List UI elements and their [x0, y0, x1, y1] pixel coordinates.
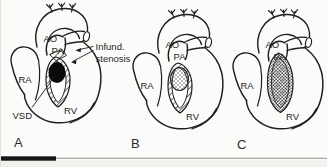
infundibular-stenosis-arrow-lower [73, 51, 94, 62]
right-ventricle-label: RV [64, 105, 78, 116]
right-atrium-label: RA [19, 74, 33, 85]
bottom-margin-strip [1, 160, 327, 167]
heart-diagram-a: AO PA RA RV [11, 3, 101, 123]
panel-caption-c: C [237, 137, 246, 152]
right-atrium-label: RA [141, 80, 155, 91]
vsd-patch [171, 68, 189, 91]
panel-caption-b: B [131, 136, 140, 151]
infundibular-stenosis-label-line1: Infund. [96, 41, 125, 52]
pulmonary-artery-label: PA [274, 51, 287, 62]
pulmonary-artery-label: PA [52, 45, 65, 56]
vsd-label: VSD [13, 110, 33, 121]
right-ventricle-label: RV [186, 111, 200, 122]
figure-graphics: AO PA RA RV AO PA RA RV AO PA RA RV Infu… [1, 0, 327, 167]
panel-caption-a: A [14, 135, 23, 150]
heart-diagram-c: AO PA RA RV [233, 9, 323, 129]
vsd-defect [49, 62, 66, 83]
aorta-label: AO [166, 39, 180, 50]
arrowhead-upper [76, 48, 82, 52]
heart-figure: AO PA RA RV AO PA RA RV AO PA RA RV Infu… [0, 0, 327, 167]
aorta-label: AO [44, 33, 58, 44]
infundibular-stenosis-label-line2: stenosis [96, 53, 131, 64]
pulmonary-artery-label: PA [174, 51, 187, 62]
bottom-scale-bar [1, 156, 56, 160]
right-ventricle-label: RV [286, 111, 300, 122]
aorta-label: AO [266, 39, 280, 50]
heart-diagram-b: AO PA RA RV [133, 9, 223, 129]
right-atrium-label: RA [241, 80, 255, 91]
